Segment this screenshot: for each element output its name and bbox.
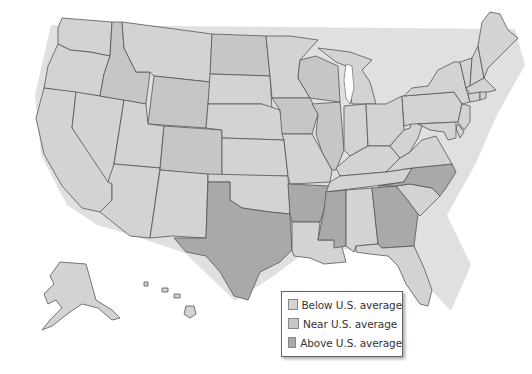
- legend-swatch-above: [288, 337, 296, 348]
- state-connecticut: [468, 92, 480, 102]
- state-new-mexico: [150, 170, 208, 238]
- state-north-dakota: [210, 34, 270, 76]
- legend-swatch-near: [288, 318, 299, 329]
- legend-item-below: Below U.S. average: [288, 295, 402, 314]
- map-legend: Below U.S. average Near U.S. average Abo…: [281, 291, 403, 357]
- state-kansas: [222, 138, 288, 176]
- state-hawaii-oahu: [162, 288, 168, 292]
- state-colorado: [160, 126, 222, 176]
- state-hawaii-kauai: [144, 282, 148, 286]
- state-alaska: [42, 262, 120, 330]
- state-wyoming: [148, 76, 210, 128]
- legend-label-below: Below U.S. average: [302, 299, 402, 311]
- legend-label-above: Above U.S. average: [300, 337, 402, 349]
- us-map: [0, 0, 532, 374]
- state-pennsylvania: [402, 92, 462, 126]
- state-hawaii-maui: [174, 294, 180, 298]
- legend-item-above: Above U.S. average: [288, 333, 402, 352]
- state-hawaii-big: [184, 306, 196, 318]
- legend-label-near: Near U.S. average: [303, 318, 397, 330]
- legend-item-near: Near U.S. average: [288, 314, 402, 333]
- legend-swatch-below: [288, 299, 298, 310]
